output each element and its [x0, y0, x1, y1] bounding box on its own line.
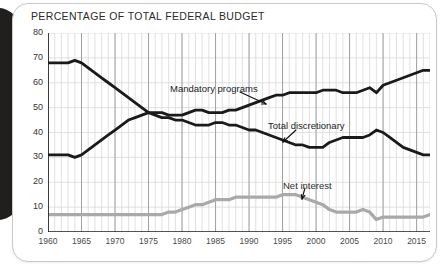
y-tick-60: 60 — [21, 77, 43, 87]
x-tick-2005: 2005 — [340, 236, 359, 246]
x-tick-1985: 1985 — [206, 236, 225, 246]
x-tick-2010: 2010 — [374, 236, 393, 246]
y-tick-10: 10 — [21, 201, 43, 211]
x-tick-1995: 1995 — [273, 236, 292, 246]
page-title: PERCENTAGE OF TOTAL FEDERAL BUDGET — [31, 10, 265, 22]
figure-page: PERCENTAGE OF TOTAL FEDERAL BUDGET 01020… — [0, 0, 447, 269]
x-tick-2000: 2000 — [307, 236, 326, 246]
y-tick-80: 80 — [21, 27, 43, 37]
series-label-discretionary: Total discretionary — [268, 120, 345, 131]
x-tick-1980: 1980 — [173, 236, 192, 246]
x-tick-1960: 1960 — [39, 236, 58, 246]
x-tick-1970: 1970 — [106, 236, 125, 246]
line-chart-svg — [48, 33, 430, 232]
y-tick-0: 0 — [21, 226, 43, 236]
gridlines-horizontal — [48, 33, 430, 207]
y-tick-50: 50 — [21, 102, 43, 112]
x-tick-1990: 1990 — [240, 236, 259, 246]
x-tick-1965: 1965 — [72, 236, 91, 246]
series-label-net-interest: Net interest — [283, 180, 332, 191]
x-tick-1975: 1975 — [139, 236, 158, 246]
y-tick-40: 40 — [21, 127, 43, 137]
chart-plot-area — [48, 33, 430, 232]
x-tick-2015: 2015 — [407, 236, 426, 246]
y-tick-30: 30 — [21, 151, 43, 161]
y-tick-70: 70 — [21, 52, 43, 62]
y-tick-20: 20 — [21, 176, 43, 186]
series-label-mandatory: Mandatory programs — [170, 83, 258, 94]
